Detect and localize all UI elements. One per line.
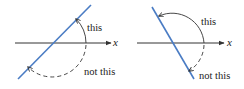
angle-of-inclination-diagram: x this not this x this not this	[0, 0, 244, 89]
right-panel: x this not this	[137, 7, 232, 81]
not-this-label: not this	[84, 66, 115, 77]
x-axis-label: x	[226, 36, 232, 48]
this-arc	[159, 13, 204, 43]
left-panel: x this not this	[15, 5, 118, 79]
blue-line	[18, 5, 91, 79]
x-axis-label: x	[112, 36, 118, 48]
not-this-label: not this	[199, 70, 230, 81]
not-this-arc	[189, 45, 204, 71]
this-label: this	[201, 16, 216, 27]
this-arc	[76, 19, 86, 43]
this-label: this	[87, 22, 102, 33]
